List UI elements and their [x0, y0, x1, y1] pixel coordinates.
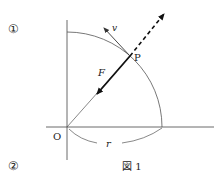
diagram: ① ② v P F O r 図 1 [0, 0, 222, 184]
marker-2: ② [8, 159, 19, 173]
figure-caption: 図 1 [122, 161, 142, 172]
label-v: v [112, 23, 117, 33]
label-o: O [53, 131, 61, 142]
label-r: r [106, 138, 112, 149]
label-p: P [134, 52, 141, 63]
circular-path-arc [67, 32, 162, 127]
radius-brace [69, 128, 162, 143]
marker-1: ① [8, 22, 19, 36]
label-f: F [97, 67, 106, 78]
dashed-outward-arrow [130, 14, 164, 56]
